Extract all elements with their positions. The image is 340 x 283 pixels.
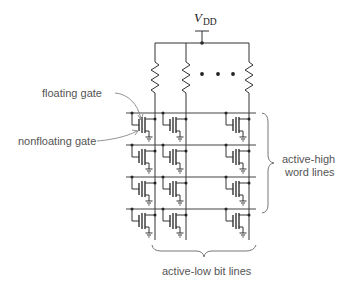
flash-transistor-icon	[162, 144, 188, 174]
floating-gate-label: floating gate	[42, 87, 102, 99]
pull-up-resistors	[151, 43, 253, 93]
flash-transistor-icon	[225, 208, 251, 238]
resistor-icon	[151, 62, 159, 93]
vdd-label: V DD	[194, 10, 217, 27]
nonfloating-gate-leader	[97, 131, 137, 141]
resistor-icon	[182, 62, 190, 93]
arrowhead-icon	[132, 130, 138, 135]
floating-gate-leader	[115, 93, 141, 119]
memory-cells	[131, 112, 251, 238]
vdd-subscript: DD	[203, 17, 217, 27]
eprom-array-diagram: V DD	[0, 0, 340, 283]
bit-lines-brace	[152, 245, 256, 257]
flash-transistor-icon	[131, 144, 157, 174]
flash-transistor-icon	[225, 112, 251, 142]
flash-transistor-icon	[162, 208, 188, 238]
flash-transistor-icon	[162, 176, 188, 206]
supply-node	[155, 31, 249, 45]
bit-lines	[155, 93, 249, 240]
resistor-icon	[245, 62, 253, 93]
flash-transistor-icon	[162, 112, 188, 142]
word-lines-label-line2: word lines	[284, 166, 335, 178]
flash-transistor-icon	[225, 144, 251, 174]
bit-lines-label: active-low bit lines	[162, 265, 252, 277]
flash-transistor-icon	[131, 176, 157, 206]
word-lines-label-line1: active-high	[282, 153, 335, 165]
flash-transistor-icon	[131, 208, 157, 238]
column-ellipsis	[200, 72, 235, 76]
word-lines-brace	[262, 113, 274, 213]
flash-transistor-icon	[131, 112, 157, 142]
flash-transistor-icon	[225, 176, 251, 206]
nonfloating-gate-label: nonfloating gate	[18, 135, 96, 147]
